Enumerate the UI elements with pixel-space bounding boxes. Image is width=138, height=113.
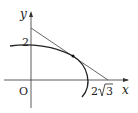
x-axis-label: x [122, 83, 129, 97]
x-intercept-label: 2 3 [91, 84, 113, 98]
diagram: y x O 2 2 3 [0, 0, 138, 113]
y-intercept-label: 2 [22, 36, 29, 49]
y-axis-arrow-icon [29, 11, 33, 17]
x-axis-arrow-icon [123, 78, 129, 82]
x-intercept-coef: 2 [91, 85, 98, 98]
x-intercept-radicand: 3 [106, 85, 113, 98]
y-axis-label: y [19, 7, 27, 21]
origin-label: O [19, 85, 28, 98]
tangent-point [72, 55, 75, 58]
